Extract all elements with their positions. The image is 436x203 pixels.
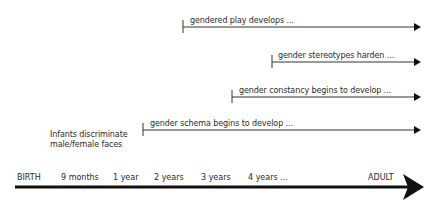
timeline-label-birth: BIRTH xyxy=(17,173,41,183)
infants-annotation-line1: Infants discriminate xyxy=(50,130,128,140)
timeline-label-1-year: 1 year xyxy=(113,173,138,183)
gender-schema-label: gender schema begins to develop ... xyxy=(150,119,293,129)
gendered-play-label: gendered play develops ... xyxy=(190,16,294,26)
timeline-label-9-months: 9 months xyxy=(61,173,99,183)
timeline-label-2-years: 2 years xyxy=(154,173,184,183)
infants-annotation-line2: male/female faces xyxy=(50,140,122,150)
gender-constancy-label: gender constancy begins to develop ... xyxy=(239,86,391,96)
timeline-label-4-years: 4 years ... xyxy=(248,173,288,183)
timeline-label-3-years: 3 years xyxy=(201,173,231,183)
timeline-label-adult: ADULT xyxy=(368,173,394,183)
gender-development-timeline-diagram: gendered play develops ... gender stereo… xyxy=(0,0,436,203)
gender-stereotypes-label: gender stereotypes harden ... xyxy=(278,51,394,61)
